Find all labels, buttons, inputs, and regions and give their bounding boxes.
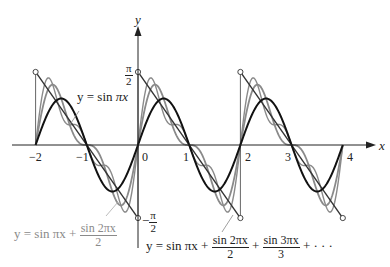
x-axis-arrow-icon bbox=[366, 142, 376, 149]
tick-2: 2 bbox=[245, 150, 251, 165]
y-axis-label: y bbox=[135, 13, 141, 26]
open-endpoint-icon bbox=[33, 69, 38, 74]
series2-lhs: y = sin πx + bbox=[14, 226, 80, 241]
series1-label: y = sin πx bbox=[77, 90, 128, 103]
series3-plus: + bbox=[249, 238, 263, 253]
pi-num: π bbox=[125, 63, 133, 76]
tick-3: 3 bbox=[285, 150, 291, 165]
pi-den: 2 bbox=[150, 223, 156, 235]
series3-tail: + · · · bbox=[300, 238, 333, 253]
x-axis-label-text: x bbox=[379, 138, 385, 153]
series3-label: y = sin πx + sin 2πx2 + sin 3πx3 + · · · bbox=[146, 234, 333, 260]
series2-den: 2 bbox=[95, 236, 101, 249]
series3-den2: 3 bbox=[278, 248, 284, 261]
tick-minus-2: −2 bbox=[29, 150, 42, 165]
series3-num1: sin 2πx bbox=[212, 234, 249, 248]
leader-series3 bbox=[222, 215, 233, 232]
series1-lhs: y = sin bbox=[77, 89, 116, 104]
y-axis-label-text: y bbox=[135, 12, 141, 27]
leader-series2 bbox=[106, 202, 118, 216]
tick-4: 4 bbox=[347, 150, 353, 165]
series2-num: sin 2πx bbox=[80, 222, 117, 236]
open-endpoint-icon bbox=[340, 215, 345, 220]
pi-den: 2 bbox=[126, 76, 132, 88]
tick-1: 1 bbox=[183, 150, 189, 165]
series3-num2: sin 3πx bbox=[263, 234, 300, 248]
open-endpoint-icon bbox=[238, 69, 243, 74]
series3-den1: 2 bbox=[227, 248, 233, 261]
tick-0: 0 bbox=[142, 150, 148, 165]
y-axis-arrow-icon bbox=[135, 26, 142, 36]
pi-num: π bbox=[149, 210, 157, 223]
tick-minus-pi-over-2: −π2 bbox=[142, 210, 157, 234]
minus-sign: − bbox=[142, 213, 149, 228]
series1-arg: πx bbox=[116, 89, 128, 104]
tick-pi-over-2: π2 bbox=[125, 63, 133, 87]
x-axis-label: x bbox=[379, 139, 385, 152]
series2-label: y = sin πx + sin 2πx2 bbox=[14, 222, 117, 248]
tick-minus-1: −1 bbox=[76, 150, 89, 165]
open-endpoint-icon bbox=[238, 215, 243, 220]
series3-lhs: y = sin πx + bbox=[146, 238, 212, 253]
